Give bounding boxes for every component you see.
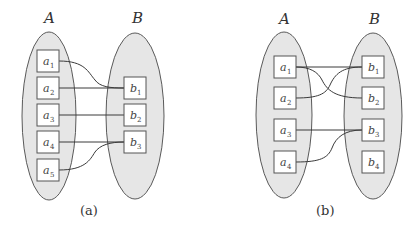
svg-text:3: 3	[287, 131, 291, 139]
node-a3: a 3	[37, 104, 59, 126]
svg-text:a: a	[280, 156, 287, 169]
svg-text:a: a	[43, 55, 50, 68]
svg-text:2: 2	[50, 89, 54, 97]
svg-text:b: b	[368, 61, 375, 74]
svg-text:b: b	[130, 109, 137, 122]
svg-text:2: 2	[137, 116, 141, 124]
node-b2: b 2	[362, 87, 384, 109]
node-a2: a 2	[274, 87, 296, 109]
node-a5: a 5	[37, 159, 59, 181]
caption-b: (b)	[316, 203, 334, 218]
svg-text:3: 3	[137, 143, 141, 151]
svg-text:a: a	[280, 61, 287, 74]
node-a1: a 1	[37, 50, 59, 72]
svg-text:b: b	[130, 82, 137, 95]
diagram-b: A B a 1 a 2 a 3 a	[256, 10, 402, 218]
svg-text:1: 1	[287, 68, 291, 76]
svg-text:1: 1	[137, 89, 141, 97]
svg-text:a: a	[43, 82, 50, 95]
svg-text:b: b	[130, 136, 137, 149]
node-a4: a 4	[274, 151, 296, 173]
svg-text:1: 1	[50, 62, 54, 70]
set-b-label: B	[368, 10, 380, 28]
set-b-label: B	[131, 9, 143, 27]
svg-text:3: 3	[375, 131, 379, 139]
node-b1: b 1	[362, 56, 384, 78]
svg-text:3: 3	[50, 116, 54, 124]
bipartite-mapping-figure: A B a 1 a 2 a 3 a	[0, 0, 415, 226]
node-b1: b 1	[124, 77, 146, 99]
node-a3: a 3	[274, 119, 296, 141]
svg-text:b: b	[368, 92, 375, 105]
svg-text:4: 4	[287, 163, 292, 171]
caption-a: (a)	[80, 203, 98, 218]
svg-text:a: a	[280, 124, 287, 137]
svg-text:2: 2	[375, 99, 379, 107]
svg-text:2: 2	[287, 99, 291, 107]
set-a-label: A	[277, 10, 290, 28]
svg-text:b: b	[368, 124, 375, 137]
svg-text:a: a	[43, 164, 50, 177]
svg-text:b: b	[368, 156, 375, 169]
node-b3: b 3	[362, 119, 384, 141]
svg-text:a: a	[280, 92, 287, 105]
node-a2: a 2	[37, 77, 59, 99]
svg-text:a: a	[43, 109, 50, 122]
node-b3: b 3	[124, 131, 146, 153]
svg-text:4: 4	[375, 163, 380, 171]
svg-text:5: 5	[50, 171, 54, 179]
node-a1: a 1	[274, 56, 296, 78]
svg-text:4: 4	[50, 143, 55, 151]
svg-text:a: a	[43, 136, 50, 149]
node-b2: b 2	[124, 104, 146, 126]
set-a-label: A	[42, 9, 55, 27]
svg-text:1: 1	[375, 68, 379, 76]
diagram-a: A B a 1 a 2 a 3 a	[22, 9, 164, 218]
node-a4: a 4	[37, 131, 59, 153]
node-b4: b 4	[362, 151, 384, 173]
